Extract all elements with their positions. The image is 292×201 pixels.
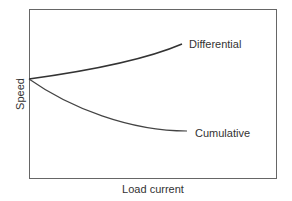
y-axis-label: Speed xyxy=(14,78,26,110)
plot-frame xyxy=(30,10,277,179)
cumulative-curve xyxy=(29,79,187,131)
cumulative-label: Cumulative xyxy=(195,127,250,139)
differential-curve xyxy=(29,44,182,79)
differential-label: Differential xyxy=(189,38,241,50)
chart: Differential Cumulative Load current Spe… xyxy=(0,0,292,201)
x-axis-label: Load current xyxy=(122,183,184,195)
